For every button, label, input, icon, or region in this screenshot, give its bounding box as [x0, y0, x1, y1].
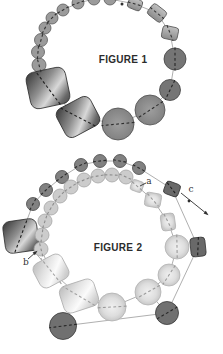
bead: [160, 213, 176, 232]
bead: [144, 192, 162, 209]
label-b: b: [23, 257, 29, 267]
label-c-arrow-line: [181, 193, 207, 214]
label-a: a: [146, 176, 152, 186]
bead: [50, 313, 77, 340]
figure-2-caption: FIGURE 2: [94, 242, 143, 253]
bead: [161, 25, 179, 41]
bead-necklace-diagram: FIGURE 1 FIGURE 2 a b c: [0, 0, 223, 354]
patent-figures-page: FIGURE 1 FIGURE 2 a b c: [0, 0, 223, 354]
bead: [25, 66, 72, 111]
bead: [104, 0, 116, 5]
bead: [135, 95, 165, 125]
label-c-arrow-dot: [188, 200, 191, 203]
bead: [146, 3, 167, 24]
figure-1-caption: FIGURE 1: [99, 54, 148, 65]
generated-diagram-layer: [2, 0, 209, 340]
bead-string-dash: [105, 175, 120, 176]
bead: [135, 279, 161, 305]
bead: [88, 0, 100, 5]
label-c: c: [188, 184, 193, 194]
figure1-string-end-dot: [121, 3, 124, 6]
bead: [98, 293, 126, 321]
